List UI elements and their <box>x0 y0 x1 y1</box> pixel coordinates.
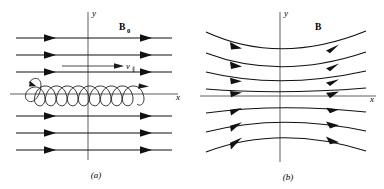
panel-a-helix-trajectory <box>25 78 149 106</box>
panel-b-caption: (b) <box>283 172 294 182</box>
panel-b-field-label-text: B <box>315 22 322 32</box>
panel-a-field-label: B 0 <box>119 22 130 34</box>
panel-a-x-axis-label: x <box>175 92 180 102</box>
panel-a-velocity-vector <box>62 63 124 69</box>
panel-a-velocity-label-subscript: ∥ <box>132 66 135 73</box>
panel-a-field-label-subscript: 0 <box>127 27 130 34</box>
panel-a-field-line-group-upper <box>16 34 172 76</box>
panel-b-field-line-group-upper <box>206 31 366 98</box>
panel-b-field-line <box>206 88 366 98</box>
panel-a-field-line-group-lower <box>16 112 172 154</box>
panel-b: y x <box>192 0 384 189</box>
panel-a-field-line <box>16 146 172 154</box>
panel-b-x-axis-label: x <box>369 94 374 104</box>
panel-a-velocity-label-text: v <box>126 61 130 71</box>
panel-b-field-line <box>206 71 366 86</box>
panel-a-field-line <box>16 68 172 76</box>
panel-a-field-line <box>16 129 172 137</box>
panel-b-field-line <box>206 122 366 132</box>
panel-b-field-line-group-lower <box>206 108 366 152</box>
panel-a-field-line <box>16 34 172 42</box>
panel-b-field-line <box>206 136 366 152</box>
panel-a-velocity-label: v ∥ <box>126 61 135 73</box>
panel-b-y-axis-label: y <box>283 8 288 18</box>
panel-a-caption: (a) <box>91 170 102 180</box>
panel-b-field-line <box>206 108 366 116</box>
panel-a-field-line <box>16 51 172 59</box>
panel-b-field-line <box>206 52 366 71</box>
panel-b-field-line <box>206 31 366 53</box>
panel-a-field-label-text: B <box>119 22 126 32</box>
figure-root: y x <box>0 0 384 189</box>
panel-a-y-axis-label: y <box>91 8 96 18</box>
panel-a: y x <box>0 0 192 189</box>
panel-a-field-line <box>16 112 172 120</box>
